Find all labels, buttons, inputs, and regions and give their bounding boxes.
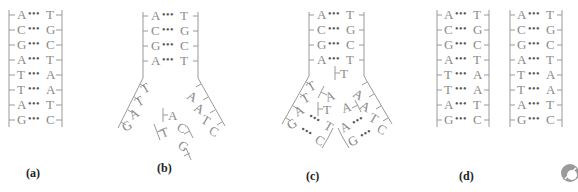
base: A (317, 52, 327, 67)
base: C (46, 112, 55, 127)
hydrogen-bond: ••• (28, 113, 40, 124)
base: T (546, 7, 554, 22)
hydrogen-bond: ••• (528, 68, 540, 79)
base: T (180, 53, 188, 68)
nucleotide: T (340, 66, 348, 81)
base: A (473, 67, 483, 82)
base: T (473, 7, 481, 22)
base: C (473, 37, 482, 52)
panel-label-b: (b) (157, 161, 172, 175)
base: C (346, 37, 355, 52)
panel-a: A•••T C•••G G•••C A•••T T•••A T•••A A•••… (9, 7, 62, 180)
panel-d: A•••T C•••G G•••C A•••T T•••A T•••A A•••… (437, 7, 562, 183)
base: A (151, 53, 161, 68)
base: G (345, 132, 361, 150)
hydrogen-bond: ••• (455, 38, 467, 49)
base: T (444, 67, 452, 82)
hydrogen-bond: ••• (528, 38, 540, 49)
daughter-duplex-right: A•••T C•••G G•••C A•••T T•••A T•••A A•••… (510, 7, 562, 127)
logo-icon (561, 164, 578, 182)
hydrogen-bond: ••• (350, 112, 366, 128)
dna-replication-diagram: A•••T C•••G G•••C A•••T T•••A T•••A A•••… (0, 0, 578, 192)
nucleotide: A (340, 99, 354, 116)
base: T (346, 7, 354, 22)
hydrogen-bond: ••• (528, 113, 540, 124)
base: G (444, 37, 453, 52)
base: A (546, 67, 556, 82)
base: C (375, 121, 390, 138)
hydrogen-bond: ••• (28, 38, 40, 49)
hydrogen-bond: ••• (455, 83, 467, 94)
base: T (180, 8, 188, 23)
hydrogen-bond: ••• (162, 39, 174, 50)
base: A (46, 82, 56, 97)
base: T (138, 80, 152, 97)
base: A (151, 8, 161, 23)
base: T (46, 7, 54, 22)
base: A (317, 7, 327, 22)
base: G (517, 37, 526, 52)
base: T (346, 52, 354, 67)
base: G (517, 112, 526, 127)
base: A (444, 7, 454, 22)
base: C (473, 112, 482, 127)
hydrogen-bond: ••• (528, 23, 540, 34)
base: T (46, 52, 54, 67)
base: A (17, 52, 27, 67)
hydrogen-bond: ••• (455, 68, 467, 79)
base: C (444, 22, 453, 37)
hydrogen-bond: ••• (28, 23, 40, 34)
base: T (17, 82, 25, 97)
hydrogen-bond: ••• (162, 9, 174, 20)
panel-label-c: (c) (306, 169, 319, 183)
base: G (17, 37, 26, 52)
base: C (151, 23, 160, 38)
left-template-arm: T T A G (119, 80, 152, 135)
base: C (17, 22, 26, 37)
base: A (517, 7, 527, 22)
panel-label-d: (d) (459, 169, 474, 183)
hydrogen-bond: ••• (28, 68, 40, 79)
base-pair-list: A•••T C•••G G•••C A•••T T•••A T•••A A•••… (9, 7, 62, 127)
base: T (444, 82, 452, 97)
panel-c: A•••T C•••G G•••C A•••T T A T A T T A ••… (282, 7, 392, 183)
hydrogen-bond: ••• (28, 8, 40, 19)
panel-b: A•••T C•••G G•••C A•••T T T A G A A T C … (118, 8, 225, 175)
hydrogen-bond: ••• (528, 8, 540, 19)
stem-pairs: A•••T C•••G G•••C A•••T (143, 8, 198, 68)
base: C (180, 38, 189, 53)
base: C (546, 112, 555, 127)
base: G (17, 112, 26, 127)
base: T (546, 52, 554, 67)
base: G (180, 23, 189, 38)
hydrogen-bond: ••• (307, 110, 323, 126)
base: C (546, 37, 555, 52)
hydrogen-bond: ••• (528, 98, 540, 109)
base: T (546, 97, 554, 112)
hydrogen-bond: ••• (162, 24, 174, 35)
free-nucleotides: A T C G (154, 108, 193, 160)
base: T (46, 97, 54, 112)
nucleotide: T (323, 102, 331, 117)
base: A (46, 67, 56, 82)
hydrogen-bond: ••• (528, 53, 540, 64)
base: T (367, 110, 381, 127)
base: G (444, 112, 453, 127)
hydrogen-bond: ••• (328, 38, 340, 49)
nucleotide: G (175, 137, 191, 155)
base: C (46, 37, 55, 52)
nucleotide: A (168, 108, 178, 123)
hydrogen-bond: ••• (455, 98, 467, 109)
base: C (317, 22, 326, 37)
panel-label-a: (a) (26, 166, 40, 180)
base: A (517, 52, 527, 67)
base: T (473, 97, 481, 112)
base: G (46, 22, 55, 37)
stem-pairs: A•••T C•••G G•••C A•••T (309, 7, 364, 67)
right-daughter-arm: A A T ••• A C ••• G (337, 82, 390, 150)
base: C (517, 22, 526, 37)
base: A (546, 82, 556, 97)
base: G (346, 22, 355, 37)
base: A (17, 97, 27, 112)
hydrogen-bond: ••• (299, 123, 315, 139)
